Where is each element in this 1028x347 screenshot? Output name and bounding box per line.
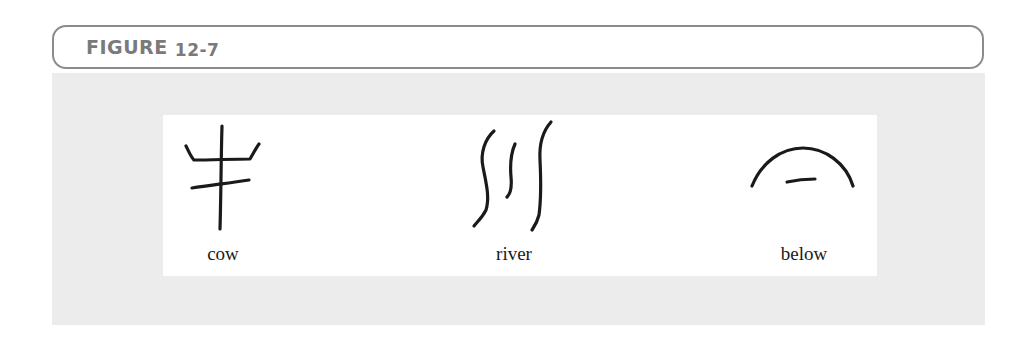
cow-glyph-icon	[186, 126, 259, 229]
glyph-label-cow: cow	[207, 243, 239, 265]
figure-title: FIGURE 12-7	[86, 36, 219, 58]
figure-number: 12-7	[175, 40, 220, 60]
river-glyph-icon	[474, 122, 551, 230]
glyph-label-below: below	[781, 243, 827, 265]
below-glyph-icon	[752, 148, 853, 186]
figure-panel: cow river below	[52, 73, 985, 325]
figure-header: FIGURE 12-7	[52, 25, 984, 69]
figure-illustration: cow river below	[163, 115, 877, 276]
figure-label: FIGURE	[86, 36, 168, 58]
glyph-label-river: river	[496, 243, 532, 265]
